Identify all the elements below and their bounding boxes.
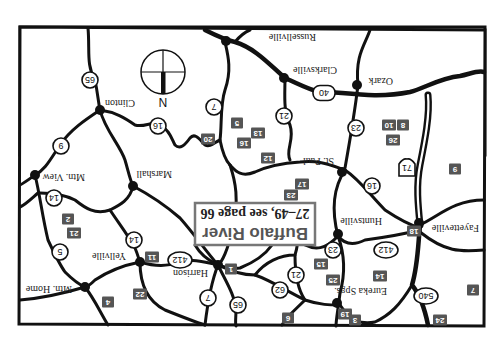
svg-text:15: 15 [316,260,325,269]
town-label-yellville: Yellville [91,251,126,262]
svg-text:12: 12 [263,154,272,163]
town-label-fayetteville: Fayetteville [431,223,479,234]
town-dot-russellville [221,36,231,46]
route-shield: 16 [150,118,166,134]
town-dot-st-paul [337,167,347,177]
town-label-huntsville: Huntsville [340,216,382,227]
svg-text:5: 5 [234,119,239,128]
site-marker: 15 [314,259,328,270]
svg-text:7: 7 [211,102,216,112]
route-shield: 65 [230,297,246,313]
site-marker: 20 [201,134,215,145]
route-shield: 65 [82,72,98,88]
site-marker: 16 [237,138,251,149]
town-dot-marshall [128,181,138,191]
town-dot-eureka-spgs [332,298,342,308]
svg-text:16: 16 [367,181,377,191]
svg-text:23: 23 [351,123,361,133]
svg-text:14: 14 [129,235,139,245]
route-shield: 412 [374,242,398,258]
svg-text:7: 7 [470,286,475,295]
svg-text:16: 16 [239,139,248,148]
svg-text:40: 40 [319,88,329,98]
route-shield: 16 [364,178,380,194]
svg-text:412: 412 [378,245,393,255]
town-label-ozark: Ozark [369,76,393,87]
town-label-harrison: Harrison [173,268,208,279]
svg-text:20: 20 [203,135,212,144]
svg-text:412: 412 [172,255,187,265]
svg-text:8: 8 [400,121,405,130]
svg-text:65: 65 [85,75,95,85]
site-marker: 12 [261,153,275,164]
svg-text:21: 21 [69,229,78,238]
route-shield: 9 [53,138,69,154]
svg-text:26: 26 [388,136,397,145]
svg-text:24: 24 [435,316,444,325]
route-shield: 23 [325,242,341,258]
svg-text:11: 11 [147,253,156,262]
svg-text:17: 17 [297,180,306,189]
compass-north-label: N [159,95,168,109]
map: Buffalo River 27–49, see page 66 N Russe… [0,0,501,346]
site-marker: 14 [373,271,387,282]
route-shield: 540 [414,288,438,304]
svg-text:6: 6 [285,314,290,323]
route-shield: 23 [348,120,364,136]
svg-text:23: 23 [286,191,295,200]
route-shield: 14 [46,190,62,206]
site-marker: 3 [349,315,361,326]
svg-text:16: 16 [153,121,163,131]
svg-text:22: 22 [135,290,144,299]
site-marker: 9 [449,164,461,175]
svg-text:4: 4 [105,298,110,307]
callout-subtitle: 27–49, see page 66 [201,206,310,221]
route-shield: 5 [52,244,68,260]
svg-text:71: 71 [402,163,412,173]
callout: Buffalo River 27–49, see page 66 [195,203,315,245]
town-dot-clarksville [279,73,289,83]
site-marker: 25 [326,275,340,286]
town-label-clarksville: Clarksville [293,65,337,76]
site-marker: 1 [225,264,237,275]
svg-text:21: 21 [279,111,289,121]
route-shield: 7 [206,99,222,115]
compass-needle-icon [161,72,166,94]
route-shield: 40 [313,86,335,101]
site-marker: 21 [67,228,81,239]
town-label-marshall: Marshall [136,169,172,180]
svg-text:2: 2 [65,215,70,224]
svg-text:23: 23 [328,245,338,255]
site-marker: 17 [295,179,309,190]
site-marker: 10 [382,120,396,131]
svg-text:62: 62 [275,285,285,295]
town-dot-yellville [135,257,145,267]
town-label-russellville: Russellville [268,32,316,43]
svg-text:5: 5 [57,247,62,257]
svg-text:65: 65 [233,300,243,310]
town-label-mtn-view: Mtn. View [42,172,85,183]
town-dot-clinton [95,105,105,115]
town-dot-harrison [213,260,223,270]
site-marker: 6 [282,313,294,324]
route-shield: 62 [272,282,288,298]
town-label-mtn-home: Mtn. Home [25,284,72,295]
svg-text:14: 14 [49,193,59,203]
town-dot-mtn-view [30,170,40,180]
svg-text:10: 10 [384,121,393,130]
svg-text:9: 9 [58,141,63,151]
callout-title: Buffalo River [202,224,308,243]
site-marker: 5 [231,118,243,129]
site-marker: 24 [433,315,447,326]
site-marker: 26 [386,135,400,146]
svg-text:7: 7 [205,293,210,303]
town-label-st-paul: St. Paul [303,156,334,167]
site-marker: 2 [62,214,74,225]
svg-text:19: 19 [340,310,349,319]
svg-text:21: 21 [291,270,301,280]
site-marker: 7 [467,285,479,296]
route-shield: 412 [168,252,192,268]
svg-text:25: 25 [328,276,337,285]
town-dot-huntsville [333,229,343,239]
route-shield: 21 [288,267,304,283]
